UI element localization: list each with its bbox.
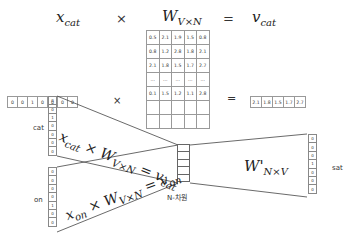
sat-output-vector: 0 0 0 1 0 0 0 xyxy=(308,134,317,194)
output-weight-label: W'N×V xyxy=(244,157,288,177)
sat-label: sat xyxy=(332,164,343,172)
on-label: on xyxy=(34,196,43,204)
on-input-vector: 0 0 0 0 1 0 0 xyxy=(48,167,57,227)
hidden-layer-label: N-차원 xyxy=(167,192,187,202)
cat-input-vector: 0 0 1 0 0 0 0 xyxy=(48,96,57,156)
cat-label: cat xyxy=(33,124,44,132)
